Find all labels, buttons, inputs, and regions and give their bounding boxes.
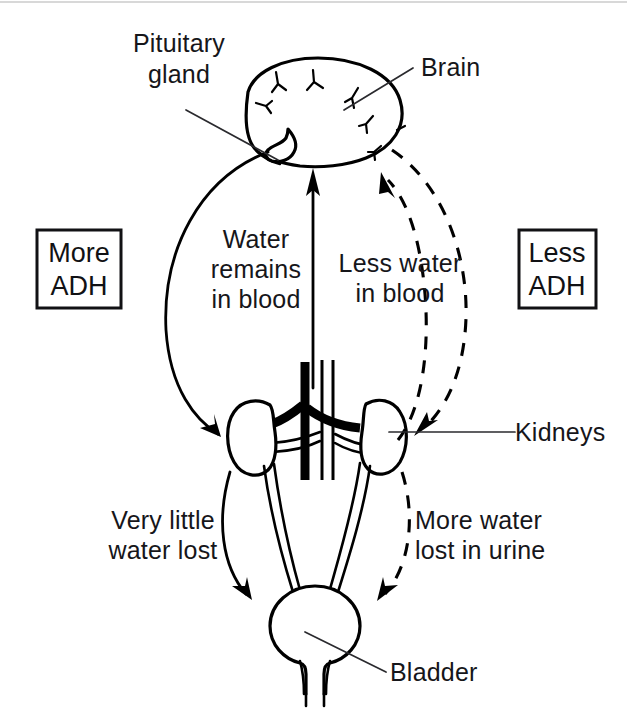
left-renal-vein-icon	[272, 432, 320, 443]
diagram-canvas: More ADH Less ADH Pituitary gland Brain …	[0, 0, 627, 712]
pituitary-label-line2: gland	[148, 60, 210, 88]
straight-arrow-kidney-to-brain	[306, 168, 320, 388]
pituitary-label-line1: Pituitary	[133, 29, 225, 57]
more-adh-line2: ADH	[50, 271, 107, 301]
dashed-arc-kidney-to-bladder	[377, 472, 409, 601]
less-adh-line2: ADH	[528, 271, 585, 301]
arrowhead-down-right	[200, 414, 221, 437]
bladder-icon	[270, 586, 360, 694]
more-water-line2: lost in urine	[415, 536, 545, 564]
left-ureter-icon	[264, 466, 293, 592]
brain-label: Brain	[421, 53, 480, 81]
urinary-tract-group	[264, 463, 370, 706]
water-remains-line2: remains	[211, 255, 301, 283]
left-kidney-icon	[228, 401, 276, 475]
less-adh-box[interactable]: Less ADH	[519, 230, 596, 308]
less-water-line1: Less water	[339, 249, 462, 277]
bladder-label: Bladder	[390, 658, 478, 686]
great-vessels-group	[272, 360, 372, 480]
right-ureter-icon	[338, 466, 370, 592]
solid-arc-kidney-to-bladder	[223, 472, 252, 600]
more-adh-box[interactable]: More ADH	[37, 230, 121, 308]
water-remains-line1: Water	[223, 225, 290, 253]
arrowhead-down-left-2	[377, 577, 398, 601]
less-water-line2: in blood	[355, 279, 444, 307]
water-remains-line3: in blood	[211, 285, 300, 313]
brain-group	[246, 58, 405, 167]
more-water-line1: More water	[415, 506, 542, 534]
very-little-line1: Very little	[111, 506, 215, 534]
urethra-icon	[306, 694, 324, 706]
adh-regulation-diagram: More ADH Less ADH Pituitary gland Brain …	[0, 0, 627, 712]
less-adh-line1: Less	[528, 238, 585, 268]
kidneys-label: Kidneys	[515, 418, 605, 446]
more-adh-line1: More	[48, 238, 110, 268]
very-little-line2: water lost	[108, 536, 218, 564]
left-renal-artery-icon	[272, 405, 303, 424]
